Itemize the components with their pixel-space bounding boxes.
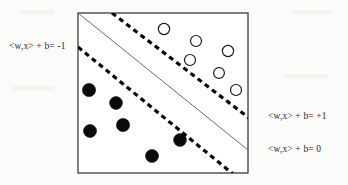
- data-point-filled: [146, 150, 159, 163]
- data-point-open: [158, 23, 169, 34]
- data-point-open: [214, 68, 225, 79]
- data-point-filled: [116, 118, 129, 131]
- plot-border: [78, 13, 248, 173]
- data-point-filled: [110, 97, 123, 110]
- data-point-open: [222, 45, 233, 56]
- data-point-open: [185, 55, 196, 66]
- data-point-open: [191, 36, 202, 47]
- svm-diagram: [0, 0, 348, 185]
- data-point-filled: [174, 134, 187, 147]
- label-hyperplane-text: <w,x> + b= 0: [268, 144, 321, 154]
- label-margin-positive: <w,x> + b= +1: [268, 111, 327, 121]
- label-margin-negative-text: <w,x> + b= -1: [9, 41, 66, 51]
- data-point-filled: [84, 125, 97, 138]
- data-point-filled: [82, 83, 95, 96]
- data-point-open: [231, 85, 242, 96]
- label-margin-negative: <w,x> + b= -1: [9, 41, 66, 51]
- label-hyperplane: <w,x> + b= 0: [268, 144, 321, 154]
- label-margin-positive-text: <w,x> + b= +1: [268, 111, 327, 121]
